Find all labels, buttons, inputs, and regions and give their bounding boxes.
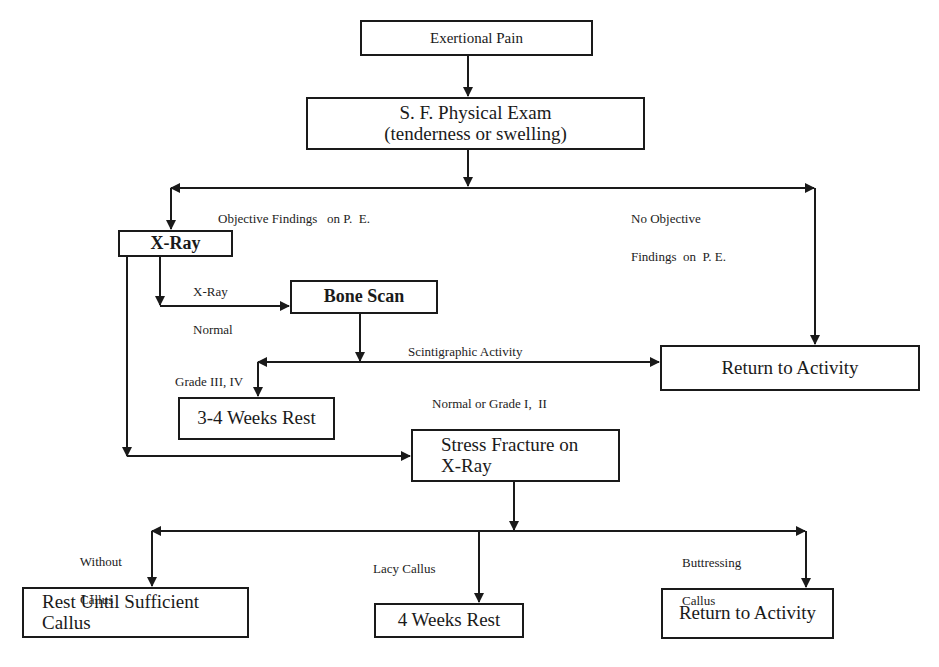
edge-label-text: Findings on P. E. [631, 249, 726, 264]
node-physical-exam: S. F. Physical Exam (tenderness or swell… [306, 97, 645, 150]
label-normal-grade-1-2: Normal or Grade I, II [419, 376, 547, 433]
node-label: X-Ray [151, 234, 201, 254]
node-label: Return to Activity [721, 358, 858, 379]
edge-label-text: Callus [80, 592, 113, 607]
label-without-callus: Without Callus [67, 534, 122, 628]
node-stress-fracture: Stress Fracture on X-Ray [411, 429, 620, 482]
node-label: X-Ray [441, 456, 492, 477]
node-rest-until-callus: Rest Until Sufficient Callus [22, 587, 249, 638]
node-label: Stress Fracture on [441, 435, 578, 456]
label-xray-normal: X-Ray Normal [180, 264, 233, 358]
edge-label-text: Callus [682, 593, 715, 608]
edge-label-text: X-Ray [193, 284, 228, 299]
flowchart: Exertional Pain S. F. Physical Exam (ten… [0, 0, 939, 667]
node-label: (tenderness or swelling) [384, 124, 567, 145]
node-label: 3-4 Weeks Rest [197, 408, 315, 429]
edge-label-text: Normal [193, 322, 233, 337]
label-buttressing-callus: Buttressing Callus [669, 535, 741, 629]
edge-label-text: Scintigraphic Activity [408, 344, 522, 359]
node-label: Bone Scan [324, 287, 405, 307]
edge-label-text: Lacy Callus [373, 561, 435, 576]
edge-label-text: Grade III, IV [175, 374, 243, 389]
label-scintigraphic-activity: Scintigraphic Activity [395, 324, 522, 381]
node-exertional-pain: Exertional Pain [360, 20, 593, 56]
node-return-activity-1: Return to Activity [660, 345, 920, 391]
label-lacy-callus: Lacy Callus [360, 541, 435, 598]
edge-label-text: Buttressing [682, 555, 741, 570]
edge-label-text: Without [80, 554, 122, 569]
label-no-objective-findings: No Objective Findings on P. E. [618, 191, 726, 285]
node-4-weeks-rest: 4 Weeks Rest [374, 603, 524, 638]
node-label: 4 Weeks Rest [398, 610, 501, 631]
node-label: S. F. Physical Exam [399, 103, 551, 124]
label-grade-3-4: Grade III, IV [162, 354, 243, 411]
edge-label-text: Normal or Grade I, II [432, 396, 547, 411]
label-objective-findings: Objective Findings on P. E. [205, 191, 370, 248]
node-bone-scan: Bone Scan [290, 280, 438, 314]
edge-label-text: No Objective [631, 211, 701, 226]
edge-label-text: Objective Findings on P. E. [218, 211, 370, 226]
node-label: Exertional Pain [430, 30, 523, 47]
